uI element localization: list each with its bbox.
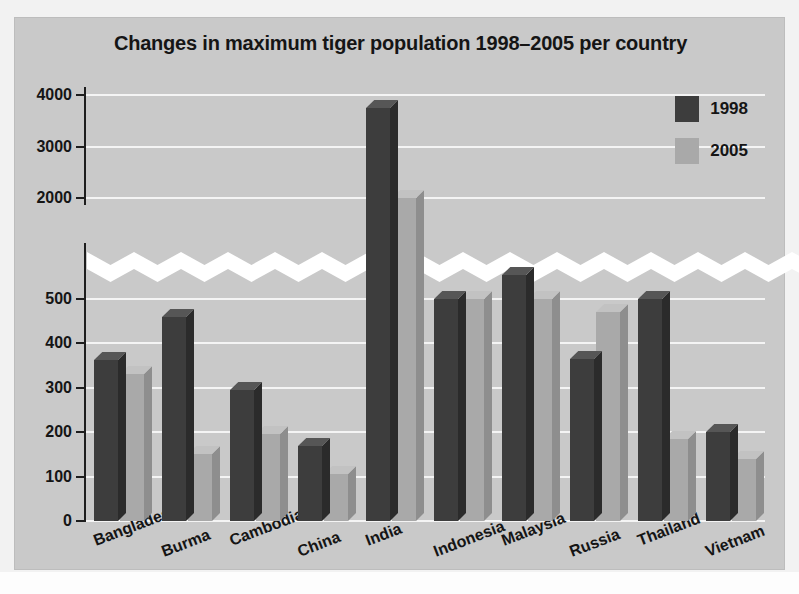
bar-side (594, 351, 602, 521)
bar-burma-1998 (162, 317, 186, 521)
bar-india-1998 (366, 108, 390, 521)
axis-break-zigzag-icon (87, 244, 799, 290)
gridline-4000 (85, 94, 765, 96)
bar-side (484, 291, 492, 521)
x-axis-label-india: India (363, 520, 404, 550)
bar-side (756, 451, 764, 521)
y-tick-label-300: 300 (45, 379, 72, 397)
bar-face (298, 446, 322, 521)
legend-label-2005: 2005 (710, 141, 748, 161)
y-tick-500 (76, 298, 85, 300)
bar-face (162, 317, 186, 521)
bar-side (662, 291, 670, 521)
x-axis-label-indonesia: Indonesia (431, 517, 507, 561)
bar-cambodia-1998 (230, 390, 254, 521)
bar-thailand-1998 (638, 299, 662, 521)
bar-face (434, 299, 458, 521)
y-tick-label-3000: 3000 (36, 138, 72, 156)
plot-area: 4000300020005004003002001000 BangladeshB… (85, 61, 765, 521)
y-tick-label-500: 500 (45, 290, 72, 308)
bottom-margin-strip (0, 572, 799, 594)
bar-indonesia-1998 (434, 299, 458, 521)
y-tick-label-200: 200 (45, 423, 72, 441)
bar-side (390, 100, 398, 521)
chart-panel: Changes in maximum tiger population 1998… (14, 17, 785, 570)
y-tick-label-2000: 2000 (36, 189, 72, 207)
y-tick-label-0: 0 (63, 512, 72, 530)
bar-face (366, 108, 390, 521)
bar-side (688, 431, 696, 521)
bar-side (212, 446, 220, 521)
bar-face (502, 275, 526, 521)
bar-side (322, 438, 330, 521)
gridline-2000 (85, 197, 765, 199)
chart-title: Changes in maximum tiger population 1998… (15, 32, 786, 55)
y-axis-spine-lower (84, 243, 86, 522)
chart-screenshot: Changes in maximum tiger population 1998… (0, 0, 799, 594)
legend-swatch-2005 (675, 138, 699, 164)
y-tick-0 (76, 520, 85, 522)
bar-face (638, 299, 662, 521)
bar-face (94, 360, 118, 521)
chart-legend: 19982005 (675, 96, 748, 180)
y-tick-300 (76, 387, 85, 389)
bar-side (552, 291, 560, 521)
gridline-3000 (85, 146, 765, 148)
bar-malaysia-1998 (502, 275, 526, 521)
legend-item-2005: 2005 (675, 138, 748, 164)
bar-side (526, 267, 534, 521)
bar-side (118, 352, 126, 521)
bar-china-1998 (298, 446, 322, 521)
bar-side (730, 424, 738, 521)
bar-side (144, 366, 152, 521)
y-tick-100 (76, 476, 85, 478)
y-tick-label-400: 400 (45, 334, 72, 352)
legend-swatch-1998 (675, 96, 699, 122)
bar-side (620, 304, 628, 521)
bar-side (348, 466, 356, 521)
bar-side (458, 291, 466, 521)
bar-face (230, 390, 254, 521)
y-tick-200 (76, 431, 85, 433)
y-tick-4000 (76, 94, 85, 96)
y-tick-400 (76, 342, 85, 344)
x-axis-label-russia: Russia (567, 525, 622, 561)
legend-label-1998: 1998 (710, 99, 748, 119)
x-axis-label-vietnam: Vietnam (703, 522, 767, 561)
bar-face (570, 359, 594, 521)
bar-bangladesh-1998 (94, 360, 118, 521)
bar-side (416, 190, 424, 521)
bar-russia-1998 (570, 359, 594, 521)
y-tick-2000 (76, 197, 85, 199)
legend-item-1998: 1998 (675, 96, 748, 122)
bar-side (254, 382, 262, 521)
bar-side (186, 309, 194, 521)
x-axis-label-china: China (295, 528, 343, 561)
bar-face (706, 432, 730, 521)
y-tick-label-100: 100 (45, 468, 72, 486)
y-tick-label-4000: 4000 (36, 86, 72, 104)
x-axis-label-burma: Burma (159, 526, 213, 561)
bar-vietnam-1998 (706, 432, 730, 521)
bar-side (280, 426, 288, 521)
y-tick-3000 (76, 146, 85, 148)
